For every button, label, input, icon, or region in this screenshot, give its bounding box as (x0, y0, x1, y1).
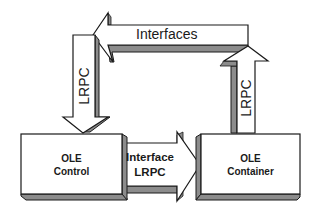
interface-lrpc-label-line1: Interface (122, 150, 178, 165)
ole-container-label-line1: OLE (201, 152, 300, 165)
interface-lrpc-label: Interface LRPC (122, 150, 178, 180)
lrpc-left-label: LRPC (76, 66, 92, 106)
ole-control-label-line1: OLE (21, 152, 122, 165)
ole-control-label-line2: Control (21, 165, 122, 178)
ole-container-label: OLE Container (201, 152, 300, 178)
interface-lrpc-label-line2: LRPC (122, 165, 178, 180)
lrpc-right-label: LRPC (238, 78, 254, 118)
ole-lrpc-diagram: Interfaces LRPC LRPC Interface LRPC OLE … (0, 0, 315, 215)
ole-control-label: OLE Control (21, 152, 122, 178)
ole-container-label-line2: Container (201, 165, 300, 178)
interfaces-label: Interfaces (136, 26, 197, 42)
